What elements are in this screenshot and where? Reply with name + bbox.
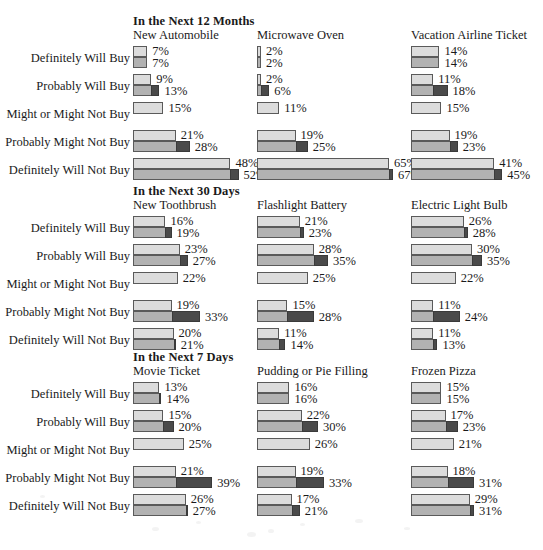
bar-top [257, 158, 389, 169]
bar-bottom [411, 57, 439, 68]
row-label: Probably Might Not Buy [0, 135, 130, 149]
row-label: Definitely Will Buy [0, 387, 130, 401]
bar-increment-segment [174, 339, 176, 350]
bar-increment-segment [287, 311, 313, 322]
bar-value: 11% [284, 102, 306, 115]
bar-increment-segment [302, 421, 318, 432]
column-header: Pudding or Pie Filling [257, 364, 368, 378]
bar-value-bottom: 33% [329, 477, 352, 490]
bar-bottom [411, 227, 468, 238]
scan-artifact [40, 495, 45, 498]
bar-increment-segment [494, 169, 502, 180]
scan-artifact [152, 527, 159, 531]
bar-top [133, 74, 151, 85]
bar-increment-segment [176, 141, 190, 152]
bar-increment-segment [186, 505, 188, 516]
bar-top [133, 244, 180, 255]
bar-value-bottom: 18% [453, 85, 476, 98]
bar-increment-segment [165, 227, 171, 238]
bar-value-bottom: 25% [313, 141, 336, 154]
row-label: Probably Will Buy [0, 249, 130, 263]
bar-value-bottom: 21% [305, 505, 328, 518]
bar-single [411, 102, 441, 114]
bar-increment-segment [450, 141, 458, 152]
bar-bottom [411, 169, 502, 180]
bar-value: 21% [459, 438, 482, 451]
row-label: Definitely Will Not Buy [0, 163, 130, 177]
bar-increment-segment [314, 255, 328, 266]
bar-bottom [133, 169, 239, 180]
column-header: Microwave Oven [257, 28, 344, 42]
bar-value-top: 18% [453, 465, 476, 478]
bar-top [257, 46, 261, 57]
bar-increment-segment [279, 339, 285, 350]
bar-value-bottom: 13% [164, 85, 187, 98]
bar-single [133, 438, 184, 450]
bar-top [411, 216, 464, 227]
bar-bottom [257, 393, 289, 404]
row-label: Probably Will Buy [0, 415, 130, 429]
bar-value: 25% [189, 438, 212, 451]
bar-bottom [133, 393, 161, 404]
bar-value-bottom: 31% [479, 505, 502, 518]
row-label: Definitely Will Buy [0, 51, 130, 65]
bar-increment-segment [433, 311, 459, 322]
bar-increment-segment [472, 255, 482, 266]
bar-value-bottom: 14% [290, 339, 313, 352]
section-title: In the Next 30 Days [133, 184, 240, 198]
column-header: Flashlight Battery [257, 198, 347, 212]
bar-value: 15% [446, 102, 469, 115]
bar-bottom [411, 393, 441, 404]
bar-value-bottom: 35% [487, 255, 510, 268]
scan-artifact [247, 532, 256, 537]
bar-top [257, 74, 261, 85]
bar-top [257, 130, 296, 141]
bar-top [133, 328, 174, 339]
bar-value-bottom: 30% [323, 421, 346, 434]
bar-single [411, 272, 456, 284]
bar-value-bottom: 27% [193, 505, 216, 518]
row-label: Definitely Will Buy [0, 221, 130, 235]
bar-top [133, 300, 172, 311]
bar-increment-segment [292, 505, 300, 516]
bar-value-bottom: 16% [294, 393, 317, 406]
bar-value-bottom: 20% [179, 421, 202, 434]
bar-increment-segment [433, 339, 437, 350]
bar-value-bottom: 14% [444, 57, 467, 70]
bar-value-bottom: 39% [217, 477, 240, 490]
bar-increment-segment [151, 85, 159, 96]
bar-top [257, 216, 300, 227]
row-label: Probably Will Buy [0, 79, 130, 93]
scan-artifact [404, 527, 410, 530]
column-header: Frozen Pizza [411, 364, 476, 378]
bar-top [257, 494, 292, 505]
bar-value-bottom: 2% [266, 57, 283, 70]
bar-value-bottom: 6% [274, 85, 291, 98]
bar-single [411, 438, 454, 450]
bar-top [411, 328, 433, 339]
row-label: Probably Might Not Buy [0, 305, 130, 319]
column-header: New Toothbrush [133, 198, 216, 212]
bar-value: 22% [461, 272, 484, 285]
bar-top [133, 130, 176, 141]
bar-top [257, 382, 289, 393]
bar-top [411, 46, 439, 57]
column-header: New Automobile [133, 28, 219, 42]
bar-bottom [257, 227, 304, 238]
row-label: Probably Might Not Buy [0, 471, 130, 485]
bar-bottom [257, 57, 261, 68]
bar-single [133, 102, 163, 114]
scan-artifact [196, 521, 201, 524]
bar-value-bottom: 23% [463, 141, 486, 154]
bar-value: 15% [168, 102, 191, 115]
bar-increment-segment [300, 227, 304, 238]
row-label: Definitely Will Not Buy [0, 499, 130, 513]
bar-value-bottom: 28% [473, 227, 496, 240]
bar-top [257, 410, 302, 421]
bar-single [133, 272, 178, 284]
bar-value-bottom: 14% [166, 393, 189, 406]
bar-increment-segment [159, 393, 161, 404]
bar-top [133, 494, 186, 505]
bar-value-bottom: 27% [193, 255, 216, 268]
bar-value-top: 21% [181, 465, 204, 478]
